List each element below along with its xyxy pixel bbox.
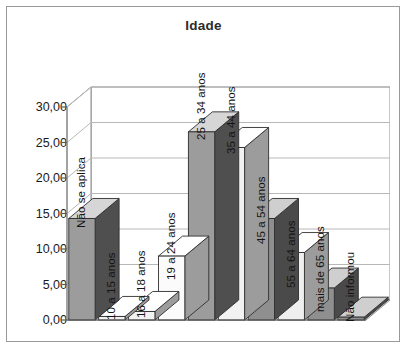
bar-column bbox=[69, 198, 119, 320]
bar-front-face bbox=[69, 218, 95, 320]
bar-side-face bbox=[245, 127, 269, 320]
bar-side-face bbox=[95, 198, 119, 320]
chart-title: Idade bbox=[0, 18, 407, 33]
chart-screenshot: Idade 0,005,0010,0015,0020,0025,0030,00 … bbox=[0, 0, 407, 349]
bar-side-face bbox=[215, 112, 239, 320]
bar-side-face bbox=[275, 198, 299, 320]
bar-chart-canvas bbox=[20, 86, 390, 331]
plot-area bbox=[20, 86, 390, 331]
